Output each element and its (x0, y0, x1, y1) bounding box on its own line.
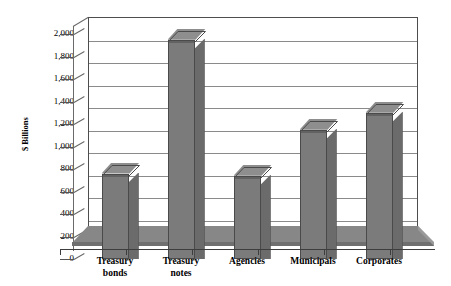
plot-wall-vertical-edge (73, 26, 74, 251)
bar-front-face (366, 113, 393, 259)
bar-side-face (261, 175, 271, 259)
bar-side-face (393, 112, 403, 259)
bar-top-outline (300, 119, 338, 131)
y-axis-tick-mark (60, 214, 74, 215)
gridline (89, 41, 417, 42)
bar-top-outline (102, 163, 140, 175)
y-axis-tick-labels: 02004006008001,0001,2001,4001,6001,8002,… (34, 0, 74, 286)
y-axis-tick-mark (60, 34, 74, 35)
y-axis-tick-mark (60, 79, 74, 80)
bar-front-face (102, 174, 129, 260)
y-axis-tick-mark (60, 169, 74, 170)
bar (102, 163, 129, 260)
bar-chart: $ Billions 02004006008001,0001,2001,4001… (0, 0, 451, 286)
plot-left-wall (73, 17, 89, 242)
x-axis-category-label: Corporates (339, 256, 419, 268)
bar-top-outline (366, 102, 404, 114)
bar-front-face (300, 130, 327, 259)
y-axis-title: $ Billions (18, 94, 32, 174)
y-axis-tick-mark (60, 124, 74, 125)
bar (366, 102, 393, 259)
bar-side-face (195, 39, 205, 259)
bar-front-face (234, 176, 261, 259)
bar-side-face (327, 129, 337, 259)
bar (300, 119, 327, 259)
y-axis-tick-mark (60, 57, 74, 58)
x-axis-line (60, 249, 435, 250)
y-axis-tick-mark (60, 102, 74, 103)
bar-top-outline (168, 29, 206, 41)
y-axis-tick-mark (60, 192, 74, 193)
y-axis-tick-mark (60, 147, 74, 148)
bar-top-outline (234, 165, 272, 177)
bar-front-face (168, 40, 195, 259)
plot-wall-diagonal-edge (73, 17, 89, 27)
bar (234, 165, 261, 259)
bar-side-face (129, 173, 139, 260)
bar (168, 29, 195, 259)
x-axis-category-labels: Treasury bondsTreasury notesAgenciesMuni… (0, 252, 451, 286)
gridline (89, 86, 417, 87)
gridline (89, 63, 417, 64)
